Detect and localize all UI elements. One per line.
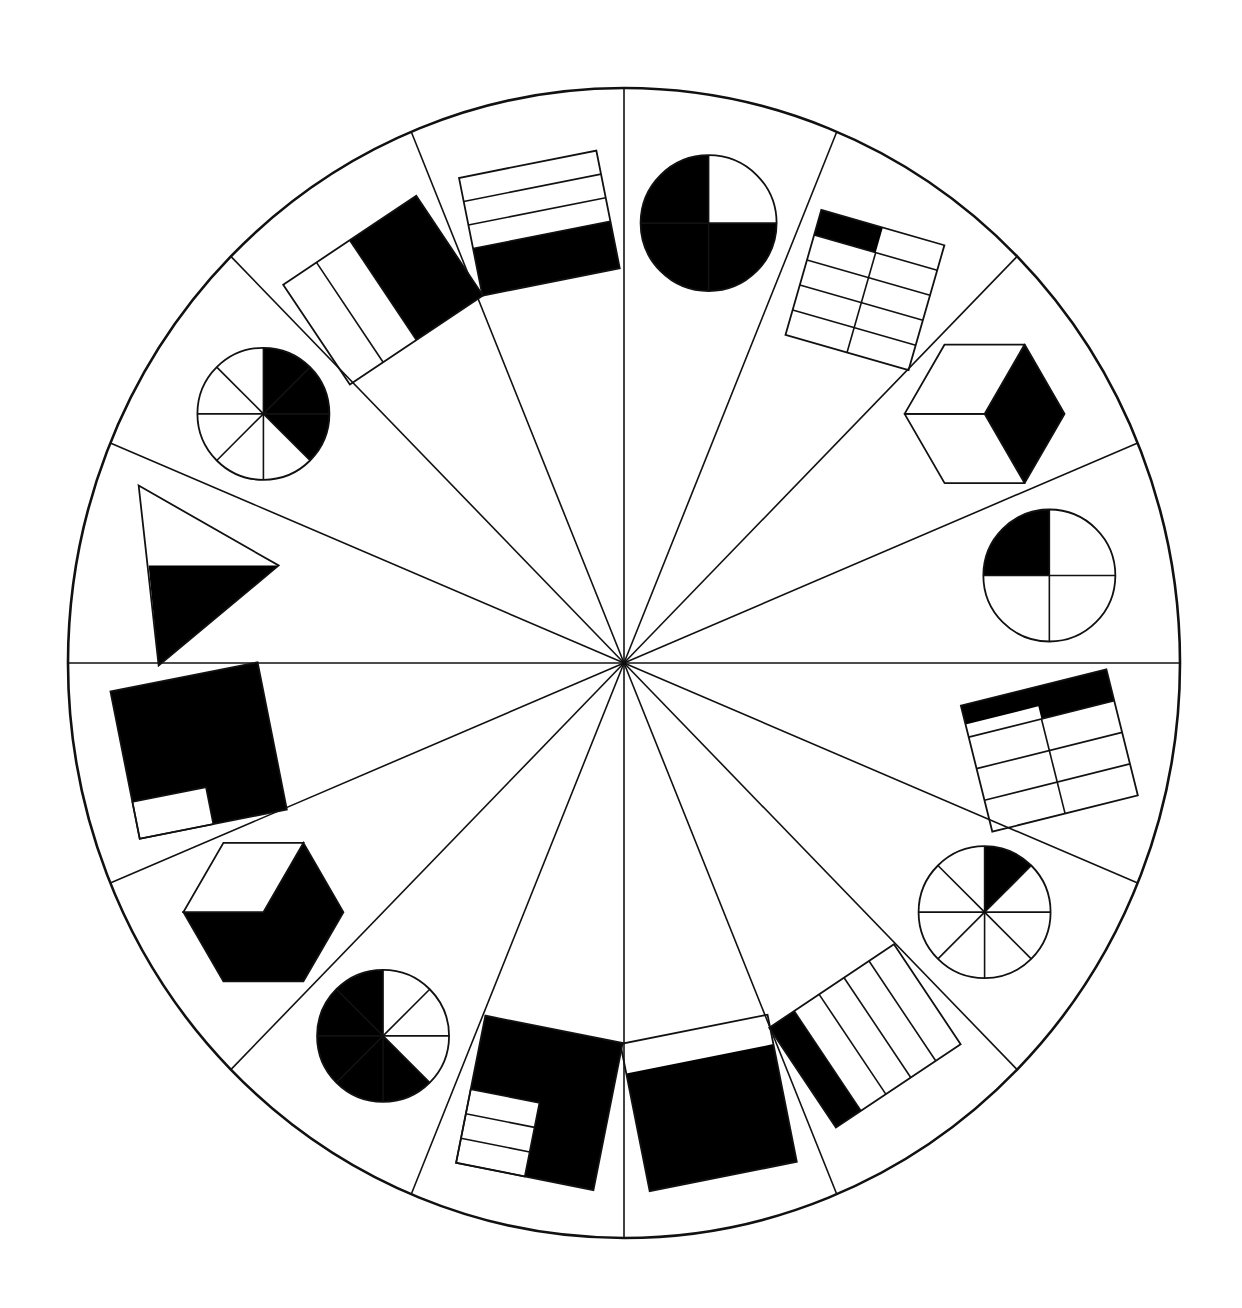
sector-divider <box>217 367 264 414</box>
fraction-wheel-diagram <box>0 0 1242 1308</box>
grid-line <box>1041 719 1065 814</box>
fraction-tile-2-of-5 <box>459 151 620 296</box>
sector-divider <box>985 912 1032 959</box>
spoke-line <box>411 132 624 663</box>
sector-divider <box>383 989 430 1036</box>
strip-divider <box>316 262 383 362</box>
fraction-tile-1-of-5 <box>769 944 960 1127</box>
fraction-tile-4-of-5 <box>620 1015 796 1191</box>
fraction-tile-2-of-4 <box>283 196 483 385</box>
shaded-sector <box>983 510 1049 576</box>
shaded-sector <box>985 846 1032 912</box>
strip-divider <box>464 174 601 201</box>
spoke-line <box>624 443 1138 663</box>
fraction-tile-1-of-2 <box>104 459 313 693</box>
fraction-wheel <box>0 0 1242 1308</box>
strip-divider <box>468 198 605 225</box>
grid-line <box>847 253 876 353</box>
sector-divider <box>938 866 985 913</box>
strip-divider <box>844 978 911 1078</box>
shaded-region <box>149 566 279 666</box>
shaded-region <box>350 196 483 340</box>
fraction-tile-3-of-4 <box>456 1016 623 1190</box>
sector-divider <box>217 414 264 461</box>
spoke-line <box>624 663 1017 1070</box>
shaded-region <box>473 221 620 295</box>
shaded-region <box>626 1044 797 1191</box>
shaded-region <box>961 669 1114 737</box>
sector-divider <box>938 912 985 959</box>
shaded-cell <box>814 210 883 253</box>
fraction-tile-1-of-4 <box>958 484 1141 667</box>
fraction-tile-3-of-8 <box>938 643 1161 858</box>
fraction-tile-1-of-3 <box>841 271 1129 557</box>
fraction-tile-7-of-8 <box>110 662 286 838</box>
